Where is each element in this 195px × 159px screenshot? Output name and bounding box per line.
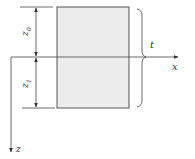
z0-label: z 0 bbox=[20, 27, 32, 37]
svg-text:1: 1 bbox=[25, 79, 32, 83]
plate-rectangle bbox=[57, 7, 129, 108]
svg-text:0: 0 bbox=[25, 27, 32, 31]
thickness-label: t bbox=[150, 39, 155, 50]
x-axis-label: x bbox=[172, 61, 178, 72]
thickness-brace bbox=[137, 9, 146, 107]
z1-label: z 1 bbox=[20, 79, 32, 89]
plate-cross-section-diagram: z 0 z 1 t x z bbox=[0, 0, 195, 159]
z-axis-label: z bbox=[15, 144, 21, 154]
